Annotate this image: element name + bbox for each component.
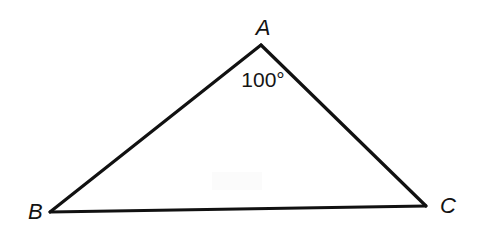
vertex-label-b: B [28, 199, 43, 224]
angle-label-a: 100° [241, 68, 284, 91]
figure-background [0, 0, 477, 235]
geometry-figure: A B C 100° [0, 0, 477, 235]
scan-smudge-artifact [212, 172, 262, 190]
triangle-diagram-canvas: A B C 100° [0, 0, 477, 235]
vertex-label-a: A [254, 15, 271, 40]
vertex-label-c: C [440, 193, 456, 218]
